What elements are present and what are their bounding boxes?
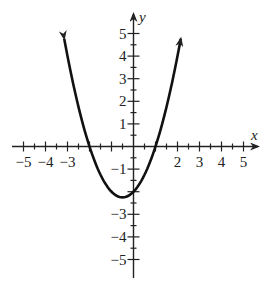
x-tick-label: 5 [240, 154, 248, 170]
x-tick-label: 4 [218, 154, 226, 170]
x-tick-label: 2 [174, 154, 182, 170]
y-tick-label: −1 [111, 161, 127, 177]
x-tick-label: −5 [16, 154, 32, 170]
x-tick-label: −3 [60, 154, 76, 170]
parabola-graph: −5−4−3234554321−1−3−4−5 x y [0, 0, 262, 283]
y-tick-label: −5 [111, 252, 127, 268]
y-tick-label: 1 [119, 116, 127, 132]
y-tick-label: 5 [119, 26, 127, 42]
x-axis-label: x [250, 127, 258, 143]
y-tick-label: −4 [111, 229, 127, 245]
y-tick-label: 4 [119, 48, 127, 64]
y-tick-label: −3 [111, 206, 127, 222]
y-tick-label: 3 [119, 71, 127, 87]
x-tick-label: −4 [38, 154, 54, 170]
x-tick-label: 3 [196, 154, 204, 170]
y-axis-label: y [137, 9, 146, 25]
y-tick-label: 2 [119, 93, 127, 109]
